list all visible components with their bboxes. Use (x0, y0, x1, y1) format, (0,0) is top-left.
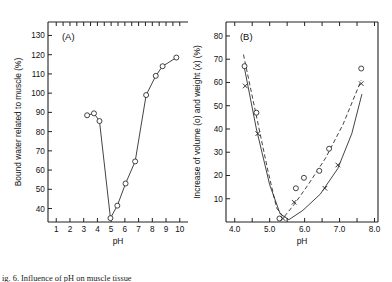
data-curve-0 (243, 55, 361, 218)
x-tick-label: 7.0 (334, 225, 346, 234)
data-point-circle (133, 159, 138, 164)
figure-caption-region: ig. 6. Influence of pH on muscle tissue (2, 267, 392, 282)
data-point-circle (91, 111, 96, 116)
y-tick-label: 80 (36, 128, 46, 137)
y-tick-label: 10 (214, 195, 224, 204)
x-tick-label: 4.0 (229, 225, 241, 234)
x-tick-label: 10 (175, 225, 185, 234)
data-point-circle (85, 113, 90, 118)
data-point-circle (254, 110, 259, 115)
y-tick-label: 130 (31, 31, 45, 40)
y-tick-label: 110 (32, 70, 45, 79)
data-point-cross (243, 84, 248, 89)
x-axis-title: pH (113, 236, 124, 246)
y-tick-label: 60 (36, 166, 46, 175)
y-tick-label: 40 (214, 125, 224, 134)
x-tick-label: 8 (150, 225, 155, 234)
data-point-circle (160, 64, 165, 69)
x-tick-label: 5 (109, 225, 114, 234)
x-tick-label: 7 (136, 225, 141, 234)
figure-svg: 40506070809010011012013012345678910(A)pH… (0, 0, 392, 282)
panel-label: (B) (240, 31, 253, 42)
data-point-circle (153, 73, 158, 78)
figure-container: 40506070809010011012013012345678910(A)pH… (0, 0, 392, 282)
y-tick-label: 80 (214, 32, 224, 41)
x-tick-label: 2 (68, 225, 73, 234)
data-point-circle (359, 66, 364, 71)
y-tick-label: 100 (31, 89, 45, 98)
data-point-circle (123, 181, 128, 186)
data-point-circle (144, 93, 149, 98)
y-tick-label: 120 (31, 51, 45, 60)
y-tick-label: 70 (36, 147, 46, 156)
data-curve-0 (87, 58, 176, 219)
x-tick-label: 6.0 (299, 225, 311, 234)
x-tick-label: 4 (95, 225, 100, 234)
figure-caption: ig. 6. Influence of pH on muscle tissue (2, 274, 132, 282)
data-point-circle (293, 186, 298, 191)
x-tick-label: 3 (81, 225, 86, 234)
y-tick-label: 70 (214, 55, 224, 64)
data-point-circle (115, 203, 120, 208)
x-tick-label: 9 (164, 225, 169, 234)
data-point-circle (108, 216, 113, 221)
data-point-cross (323, 186, 328, 191)
y-tick-label: 50 (214, 102, 224, 111)
data-point-circle (242, 64, 247, 69)
y-tick-label: 90 (36, 108, 46, 117)
x-tick-label: 1 (54, 225, 59, 234)
panel-b: 10203040506070804.05.06.07.08.0(B)pHIncr… (192, 22, 381, 246)
x-tick-label: 8.0 (369, 225, 381, 234)
y-tick-label: 40 (36, 205, 46, 214)
y-tick-label: 60 (214, 78, 224, 87)
data-point-circle (97, 119, 102, 124)
data-point-circle (174, 55, 179, 60)
y-tick-label: 50 (36, 185, 46, 194)
x-tick-label: 5.0 (264, 225, 276, 234)
y-axis-title: Increase of volume (o) and weight (x) (%… (192, 45, 202, 199)
x-tick-label: 6 (123, 225, 128, 234)
x-axis-title: pH (297, 236, 308, 246)
data-point-circle (301, 175, 306, 180)
data-point-circle (317, 168, 322, 173)
data-point-circle (327, 146, 332, 151)
panel-a: 40506070809010011012013012345678910(A)pH… (13, 22, 188, 246)
y-axis-title: Bound water related to muscle (%) (13, 58, 23, 187)
y-tick-label: 30 (214, 148, 224, 157)
panel-label: (A) (62, 31, 75, 42)
y-tick-label: 20 (214, 171, 224, 180)
